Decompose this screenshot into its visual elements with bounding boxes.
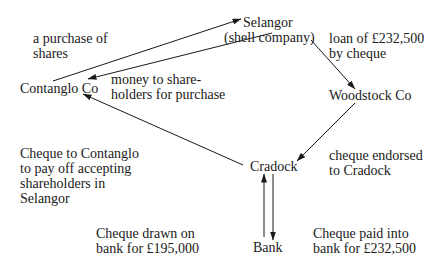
label-line: Cheque drawn on bbox=[96, 226, 199, 241]
label-line: holders for purchase bbox=[111, 87, 225, 102]
node-selangor: Selangor bbox=[243, 15, 293, 30]
node-bank: Bank bbox=[253, 240, 283, 255]
label-line: shareholders in bbox=[20, 176, 139, 191]
node-contanglo: Contanglo Co bbox=[20, 81, 98, 96]
label-money-to-shareholders: money to share- holders for purchase bbox=[111, 72, 225, 102]
label-line: Selangor bbox=[20, 191, 139, 206]
label-cheque-drawn: Cheque drawn on bank for £195,000 bbox=[96, 226, 199, 256]
label-line: cheque endorsed bbox=[329, 148, 423, 163]
flow-diagram: Selangor (shell company) Contanglo Co Wo… bbox=[0, 0, 442, 270]
label-line: Cheque to Contanglo bbox=[20, 146, 139, 161]
label-cheque-to-contanglo: Cheque to Contanglo to pay off accepting… bbox=[20, 146, 139, 206]
label-line: bank for £195,000 bbox=[96, 241, 199, 256]
label-purchase-of-shares: a purchase of shares bbox=[33, 31, 108, 61]
label-cheque-paid: Cheque paid into bank for £232,500 bbox=[313, 226, 416, 256]
label-line: Cheque paid into bbox=[313, 226, 416, 241]
node-woodstock: Woodstock Co bbox=[329, 88, 411, 103]
label-cheque-endorsed: cheque endorsed to Cradock bbox=[329, 148, 423, 178]
label-line: to pay off accepting bbox=[20, 161, 139, 176]
label-line: money to share- bbox=[111, 72, 225, 87]
node-cradock: Cradock bbox=[250, 159, 297, 174]
node-selangor-subtitle: (shell company) bbox=[224, 30, 315, 45]
label-line: by cheque bbox=[329, 46, 424, 61]
label-line: loan of £232,500 bbox=[329, 31, 424, 46]
label-line: bank for £232,500 bbox=[313, 241, 416, 256]
label-loan: loan of £232,500 by cheque bbox=[329, 31, 424, 61]
label-line: to Cradock bbox=[329, 163, 423, 178]
label-line: shares bbox=[33, 46, 108, 61]
label-line: a purchase of bbox=[33, 31, 108, 46]
